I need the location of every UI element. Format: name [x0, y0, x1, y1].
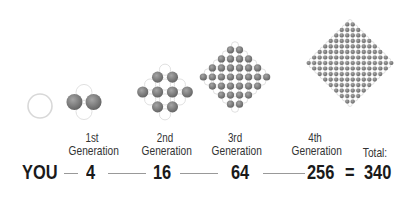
generation-4-diamond [307, 20, 394, 107]
generation-1-count: 4 [86, 162, 95, 182]
generation-3-diamond [200, 42, 271, 113]
generation-4-label: 4th Generation [285, 132, 345, 157]
generation-1-label: 1st Generation [62, 132, 122, 157]
you-label: YOU [22, 162, 58, 182]
generation-1-diamond [66, 84, 101, 119]
generation-2-label: 2nd Generation [135, 132, 195, 157]
total-label: Total: [350, 146, 400, 159]
connector-line [180, 173, 218, 174]
generation-2-diamond [137, 64, 193, 120]
connector-line [108, 173, 146, 174]
generation-3-count: 64 [231, 162, 249, 182]
generation-3-label: 3rd Generation [205, 132, 265, 157]
generation-4-count: 256 [307, 162, 334, 182]
connector-line [64, 173, 78, 174]
total-count: 340 [364, 162, 391, 182]
generation-2-count: 16 [153, 162, 171, 182]
connector-line [263, 173, 305, 174]
you-circle-icon [28, 94, 52, 118]
equals-sign: = [345, 162, 355, 182]
